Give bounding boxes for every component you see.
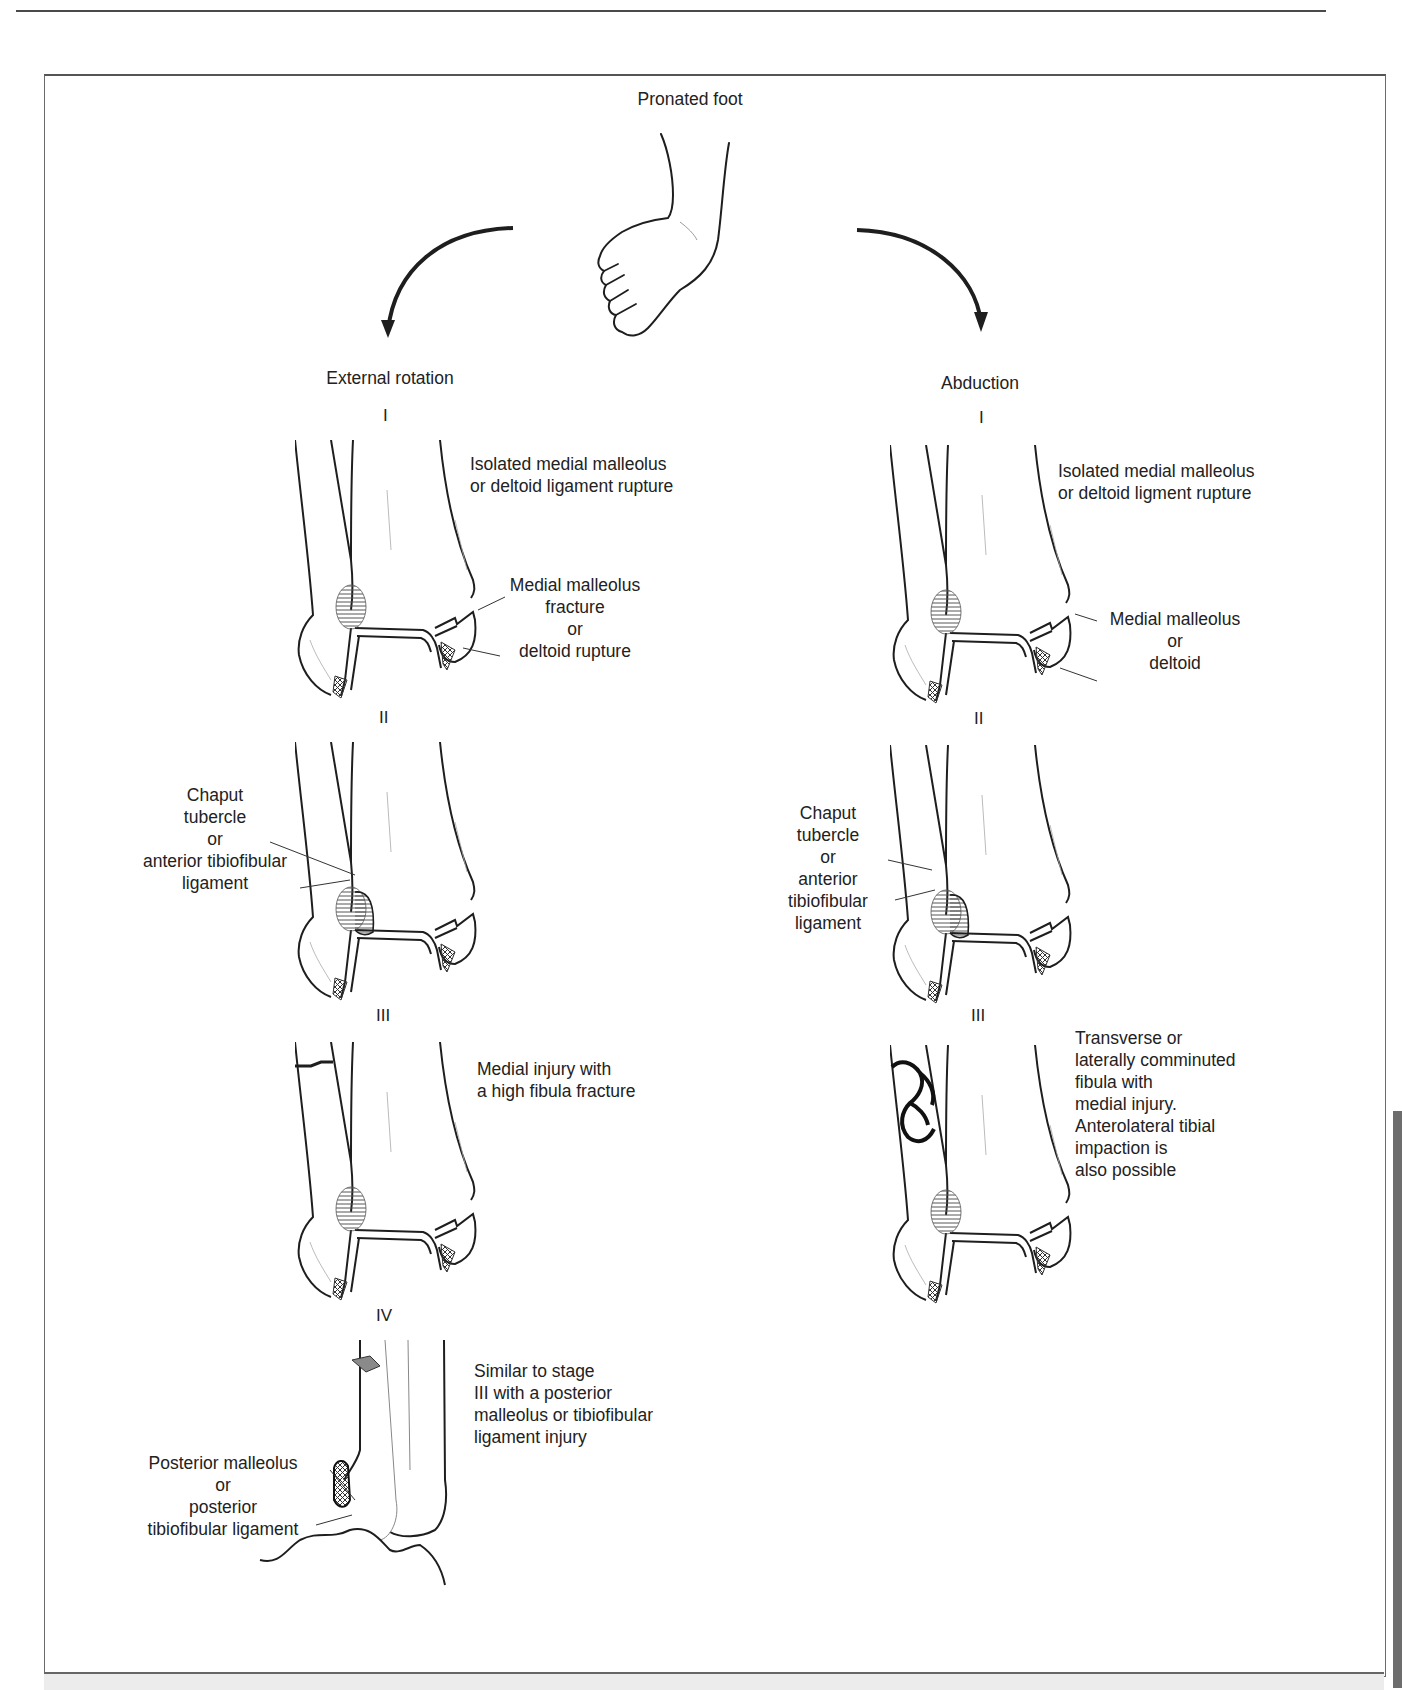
er-stage-1-callout: Medial malleolus fracture or deltoid rup… bbox=[490, 574, 660, 662]
er-stage-4-callout: Posterior malleolus or posterior tibiofi… bbox=[120, 1452, 326, 1540]
er-stage-4-description: Similar to stage III with a posterior ma… bbox=[474, 1360, 653, 1448]
er-stage-2-callout: Chaput tubercle or anterior tibiofibular… bbox=[120, 784, 310, 894]
er-stage-1-description: Isolated medial malleolus or deltoid lig… bbox=[470, 453, 673, 497]
er-stage-3-description: Medial injury with a high fibula fractur… bbox=[477, 1058, 636, 1102]
ab-stage-2-callout: Chaput tubercle or anterior tibiofibular… bbox=[770, 802, 886, 934]
ab-stage-1-callout: Medial malleolus or deltoid bbox=[1090, 608, 1260, 674]
ab-stage-1-description: Isolated medial malleolus or deltoid lig… bbox=[1058, 460, 1255, 504]
ab-stage-3-description: Transverse or laterally comminuted fibul… bbox=[1075, 1027, 1235, 1181]
